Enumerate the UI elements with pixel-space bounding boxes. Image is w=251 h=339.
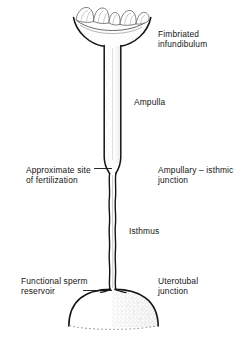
isthmus-structure xyxy=(109,174,116,290)
label-ampulla: Ampulla xyxy=(134,97,165,107)
oviduct-figure: Fimbriated infundibulum Ampulla Approxim… xyxy=(0,0,251,339)
label-uterotubal-junction: Uterotubal junction xyxy=(158,276,198,297)
fimbriated-infundibulum-structure xyxy=(70,7,154,50)
ampulla-structure xyxy=(102,44,124,174)
fimbriae-group xyxy=(76,7,149,25)
leader-lines-group xyxy=(83,169,112,291)
label-ampullary-isthmic-junction: Ampullary – isthmic junction xyxy=(158,165,233,186)
label-approximate-site-of-fertilization: Approximate site of fertilization xyxy=(26,165,91,186)
label-functional-sperm-reservoir: Functional sperm reservoir xyxy=(21,276,88,297)
label-fimbriated-infundibulum: Fimbriated infundibulum xyxy=(158,29,207,50)
label-isthmus: Isthmus xyxy=(129,226,159,236)
